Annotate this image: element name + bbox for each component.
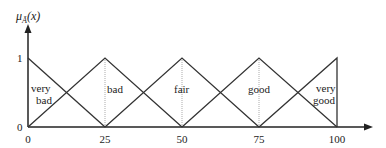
label-very-bad-line2: bad [36, 94, 52, 106]
y-tick-0: 0 [17, 121, 23, 133]
label-very-bad-line1: very [31, 82, 51, 94]
label-very-good-line1: very [316, 82, 336, 94]
label-very-good-line2: good [313, 94, 336, 106]
y-axis-arrow-icon [25, 24, 32, 33]
membership-function-chart: μÃ(x) 1 0 0 25 50 75 100 very bad bad fa… [0, 0, 386, 148]
label-bad: bad [107, 83, 123, 95]
x-tick-75: 75 [254, 133, 266, 145]
y-axis-label: μÃ(x) [15, 9, 40, 25]
label-fair: fair [174, 83, 190, 95]
x-axis-arrow-icon [364, 124, 373, 131]
x-tick-0: 0 [25, 133, 31, 145]
label-good: good [248, 83, 271, 95]
y-tick-1: 1 [17, 52, 23, 64]
x-tick-50: 50 [177, 133, 189, 145]
x-tick-25: 25 [100, 133, 112, 145]
x-tick-100: 100 [329, 133, 346, 145]
